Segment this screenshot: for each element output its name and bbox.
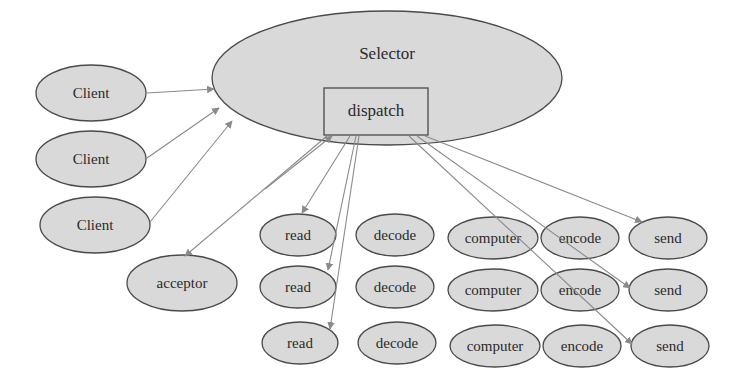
read-node-1-label: read — [285, 227, 311, 243]
edge-dispatch-to-send-2 — [417, 136, 630, 288]
send-node-1: send — [629, 217, 707, 259]
send-node-3: send — [631, 325, 709, 367]
reactor-diagram: Selector dispatch ClientClientClient acc… — [0, 0, 740, 388]
client-node-3-label: Client — [77, 217, 114, 233]
pipeline-grid: readdecodecomputerencodesendreaddecodeco… — [260, 214, 709, 367]
computer-node-2-label: computer — [465, 282, 522, 298]
edge-dispatch-to-send-1 — [425, 136, 642, 222]
decode-node-2-label: decode — [374, 279, 417, 295]
selector-label: Selector — [359, 44, 415, 63]
decode-node-3-label: decode — [376, 335, 419, 351]
decode-node-1: decode — [356, 214, 434, 256]
client-node-1-label: Client — [73, 85, 110, 101]
decode-node-1-label: decode — [374, 227, 417, 243]
client-node-3: Client — [40, 197, 150, 253]
read-node-3-label: read — [287, 335, 313, 351]
send-node-1-label: send — [654, 230, 682, 246]
decode-node-3: decode — [358, 322, 436, 364]
acceptor-label: acceptor — [157, 275, 208, 291]
client-nodes: ClientClientClient — [36, 65, 150, 253]
computer-node-1: computer — [448, 217, 538, 259]
computer-node-3-label: computer — [467, 338, 524, 354]
decode-node-2: decode — [356, 266, 434, 308]
send-node-2: send — [629, 269, 707, 311]
encode-node-3-label: encode — [561, 338, 604, 354]
encode-node-2: encode — [541, 269, 619, 311]
selector-node: Selector dispatch — [212, 11, 562, 145]
client-node-2: Client — [36, 131, 146, 187]
encode-node-1-label: encode — [559, 230, 602, 246]
encode-node-3: encode — [543, 325, 621, 367]
computer-node-2: computer — [448, 269, 538, 311]
send-node-3-label: send — [656, 338, 684, 354]
client-node-2-label: Client — [73, 151, 110, 167]
read-node-1: read — [260, 214, 336, 256]
acceptor-node: acceptor — [127, 255, 237, 311]
client-node-1: Client — [36, 65, 146, 121]
read-node-2: read — [260, 266, 336, 308]
computer-node-3: computer — [450, 325, 540, 367]
edge-client-3-to-selector — [150, 121, 232, 222]
read-node-2-label: read — [285, 279, 311, 295]
edge-client-1-to-selector — [147, 89, 214, 93]
read-node-3: read — [262, 322, 338, 364]
dispatch-label: dispatch — [348, 101, 405, 120]
send-node-2-label: send — [654, 282, 682, 298]
